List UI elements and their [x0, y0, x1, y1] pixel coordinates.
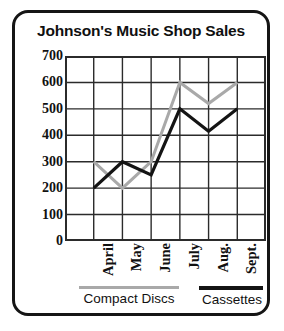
- plot-area: [65, 56, 266, 241]
- plot-svg: [65, 56, 266, 241]
- x-axis-tick-sept: Sept.: [243, 243, 260, 274]
- x-axis-tick-may: May: [128, 243, 145, 271]
- y-axis-tick-400: 400: [17, 128, 63, 142]
- y-axis-tick-700: 700: [17, 49, 63, 63]
- x-axis-tick-june: June: [157, 243, 174, 273]
- legend-item-cassettes: Cassettes: [199, 286, 263, 307]
- legend-swatch-compact-discs: [79, 286, 179, 289]
- y-axis-tick-300: 300: [17, 155, 63, 169]
- chart-card: Johnson's Music Shop Sales 0100200300400…: [12, 10, 270, 316]
- y-axis-tick-500: 500: [17, 102, 63, 116]
- legend-item-compact-discs: Compact Discs: [79, 286, 179, 307]
- legend-label-cassettes: Cassettes: [201, 292, 263, 308]
- x-axis-tick-aug: Aug.: [215, 243, 232, 272]
- chart-title: Johnson's Music Shop Sales: [15, 22, 267, 40]
- y-axis-tick-200: 200: [17, 181, 63, 195]
- y-axis-tick-labels: 0100200300400500600700: [15, 56, 63, 241]
- x-axis-tick-july: July: [186, 243, 203, 270]
- y-axis-tick-600: 600: [17, 75, 63, 89]
- legend-swatch-cassettes: [199, 286, 263, 290]
- y-axis-tick-100: 100: [17, 208, 63, 222]
- legend-label-compact-discs: Compact Discs: [79, 291, 179, 307]
- x-axis-tick-april: April: [100, 243, 117, 276]
- y-axis-tick-0: 0: [17, 234, 63, 248]
- chart-legend: Compact Discs Cassettes: [55, 286, 265, 314]
